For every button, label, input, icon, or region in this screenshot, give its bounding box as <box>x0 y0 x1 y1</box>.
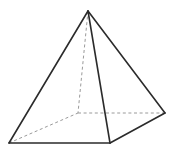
pyramid-svg: Square Pyramid Line drawing of a square-… <box>0 0 174 156</box>
pyramid-faces <box>9 11 165 143</box>
pyramid-figure-canvas: Square Pyramid Line drawing of a square-… <box>0 0 174 156</box>
